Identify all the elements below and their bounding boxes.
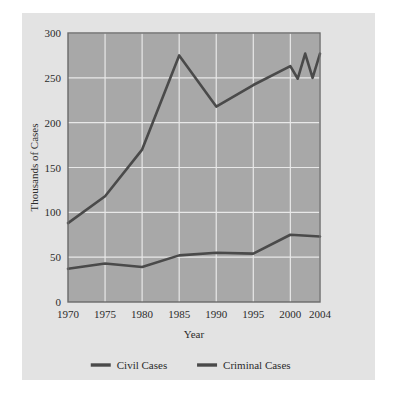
x-tick-label: 1990 bbox=[205, 308, 228, 320]
legend-label-text: Civil Cases bbox=[117, 359, 167, 371]
x-tick-label: 1980 bbox=[131, 308, 154, 320]
y-axis-tick-labels: 050100150200250300 bbox=[45, 27, 62, 308]
x-tick-label: 1970 bbox=[57, 308, 80, 320]
y-axis-title: Thousands of Cases bbox=[28, 124, 40, 212]
y-tick-label: 200 bbox=[45, 117, 62, 129]
legend-item-criminal-cases: Criminal Cases bbox=[197, 359, 291, 371]
legend-label-text: Criminal Cases bbox=[223, 359, 291, 371]
legend-item-civil-cases: Civil Cases bbox=[91, 359, 167, 371]
x-axis-title: Year bbox=[184, 328, 205, 340]
y-tick-label: 100 bbox=[45, 206, 62, 218]
x-tick-label: 2004 bbox=[309, 308, 332, 320]
x-tick-label: 1995 bbox=[242, 308, 265, 320]
y-tick-label: 0 bbox=[56, 296, 62, 308]
x-axis-tick-labels: 19701975198019851990199520002004 bbox=[57, 308, 332, 320]
y-tick-label: 250 bbox=[45, 72, 62, 84]
chart-figure: 050100150200250300 197019751980198519901… bbox=[22, 13, 375, 380]
y-tick-label: 50 bbox=[50, 251, 62, 263]
chart-legend: Civil CasesCriminal Cases bbox=[91, 359, 291, 371]
x-tick-label: 1985 bbox=[168, 308, 191, 320]
x-axis-title-text: Year bbox=[184, 328, 205, 340]
y-axis-title-text: Thousands of Cases bbox=[28, 124, 40, 212]
line-chart: 050100150200250300 197019751980198519901… bbox=[22, 13, 375, 380]
x-tick-label: 1975 bbox=[94, 308, 117, 320]
y-tick-label: 300 bbox=[45, 27, 62, 39]
y-tick-label: 150 bbox=[45, 162, 62, 174]
x-tick-label: 2000 bbox=[279, 308, 302, 320]
